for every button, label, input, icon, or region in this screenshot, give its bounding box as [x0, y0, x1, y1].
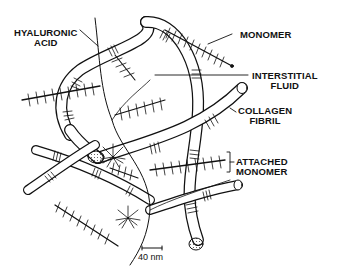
scale-bar: [142, 246, 162, 250]
junction-star-lower: [116, 206, 140, 228]
monomer-lower-left: [55, 202, 118, 246]
monomer-center: [115, 98, 165, 120]
label-hyaluronic-acid: HYALURONIC ACID: [14, 28, 77, 48]
leader-hyaluronic-acid: [80, 30, 98, 46]
leader-monomer: [208, 34, 232, 44]
monomer-upper-mid: [112, 55, 135, 80]
label-attached-line2: MONOMER: [236, 167, 288, 177]
label-monomer: MONOMER: [240, 30, 291, 40]
leader-collagen-fibril: [230, 108, 236, 112]
scale-bar-label: 40 nm: [138, 252, 163, 262]
diagram-canvas: HYALURONIC ACID MONOMER INTERSTITIAL FLU…: [0, 0, 339, 274]
collagen-fibril-middle-long: [98, 83, 247, 159]
label-collagen-line2: FIBRIL: [238, 116, 292, 126]
label-attached-monomer: ATTACHED MONOMER: [236, 157, 288, 177]
label-interstitial-line2: FLUID: [252, 81, 318, 91]
bracket-attached-monomer: [227, 152, 234, 172]
label-collagen-fibril: COLLAGEN FIBRIL: [238, 106, 292, 126]
label-hyaluronic-line2: ACID: [14, 38, 77, 48]
label-interstitial-fluid: INTERSTITIAL FLUID: [252, 71, 318, 91]
